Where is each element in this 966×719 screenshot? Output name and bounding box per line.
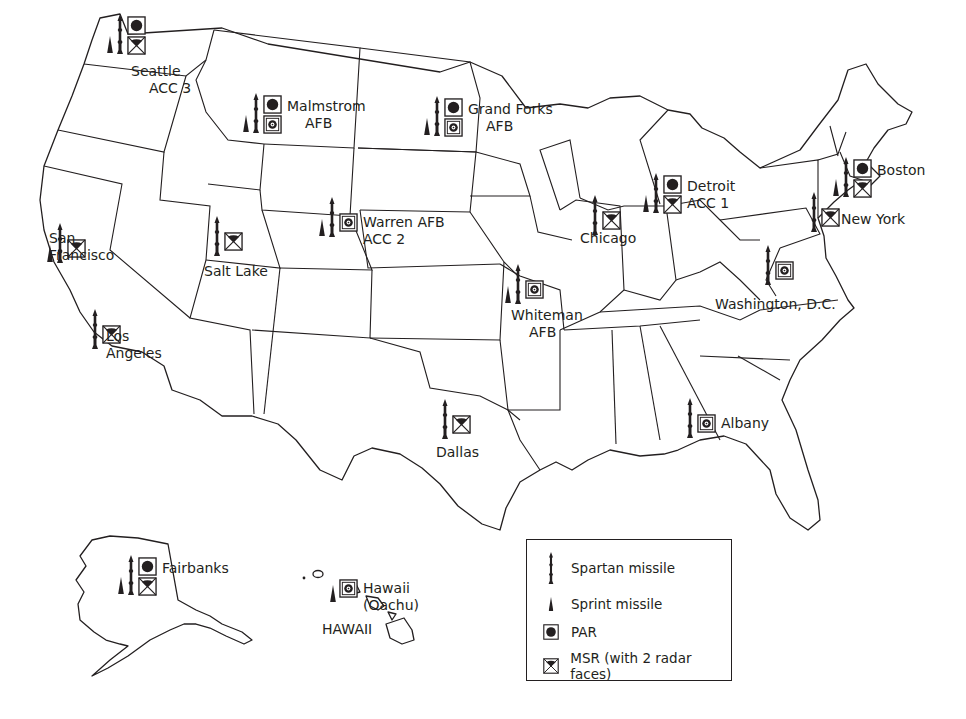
site-label: (Oachu): [363, 597, 419, 613]
msr-site-radar-icon: [264, 116, 281, 133]
alaska-outline: [76, 536, 252, 676]
msr-radar-icon: [139, 578, 156, 595]
site-label: AFB: [486, 118, 513, 134]
par-radar-icon: [445, 99, 462, 116]
legend-item-sprint: Sprint missile: [541, 596, 662, 612]
site-label: ACC 3: [149, 80, 191, 96]
msr-radar-icon: [822, 209, 839, 226]
site-label: Francisco: [49, 247, 114, 263]
msr-radar-icon: [541, 658, 560, 674]
legend-label: Spartan missile: [571, 560, 675, 576]
sprint-missile-icon: [541, 597, 561, 611]
site-boston[interactable]: Boston: [833, 157, 925, 197]
par-radar-icon: [128, 17, 145, 34]
site-label: AFB: [305, 115, 332, 131]
site-label: Boston: [877, 162, 925, 178]
site-label: Dallas: [436, 444, 479, 460]
site-label: San: [49, 230, 75, 246]
legend-item-par: PAR: [541, 624, 597, 640]
msr-site-radar-icon: [776, 262, 793, 279]
sprint-missile-icon: [330, 585, 336, 602]
site-label: Warren AFB: [363, 214, 445, 230]
msr-radar-icon: [453, 416, 470, 433]
msr-radar-icon: [225, 233, 242, 250]
legend-item-msr: MSR (with 2 radar faces): [541, 650, 731, 682]
msr-radar-icon: [664, 196, 681, 213]
site-label: Hawaii: [363, 580, 410, 596]
site-label: ACC 2: [363, 231, 405, 247]
msr-radar-icon: [854, 180, 871, 197]
legend-label: MSR (with 2 radar faces): [570, 650, 731, 682]
site-label: Fairbanks: [162, 560, 229, 576]
site-detroit[interactable]: DetroitACC 1: [643, 173, 736, 213]
par-radar-icon: [541, 624, 561, 640]
site-label: Washington, D.C.: [715, 296, 836, 312]
msr-radar-icon: [128, 37, 145, 54]
legend-item-spartan: Spartan missile: [541, 552, 675, 584]
site-label: Salt Lake: [204, 263, 268, 279]
site-label: Detroit: [687, 178, 736, 194]
msr-site-radar-icon: [526, 281, 543, 298]
site-label: Malmstrom: [287, 98, 366, 114]
site-label: Whiteman: [511, 307, 583, 323]
region-label-hawaii-state: HAWAII: [322, 621, 372, 637]
site-label: Grand Forks: [468, 101, 553, 117]
site-label: Angeles: [106, 345, 162, 361]
us-map: SeattleACC 3MalmstromAFBGrand ForksAFBDe…: [0, 0, 966, 719]
region-labels: HAWAII: [322, 621, 372, 637]
site-hawaii-oahu[interactable]: Hawaii(Oachu): [330, 580, 419, 613]
site-label: Los: [106, 328, 129, 344]
site-label: AFB: [529, 324, 556, 340]
site-label: ACC 1: [687, 195, 729, 211]
site-label: Chicago: [580, 230, 636, 246]
msr-radar-icon: [603, 212, 620, 229]
par-radar-icon: [264, 96, 281, 113]
site-label: Albany: [721, 415, 769, 431]
par-radar-icon: [854, 160, 871, 177]
legend: Spartan missile Sprint missile PAR MSR (…: [526, 539, 732, 681]
msr-site-radar-icon: [445, 119, 462, 136]
msr-site-radar-icon: [340, 580, 357, 597]
par-radar-icon: [139, 558, 156, 575]
msr-site-radar-icon: [698, 415, 715, 432]
spartan-missile-icon: [541, 552, 561, 584]
legend-label: Sprint missile: [571, 596, 662, 612]
msr-site-radar-icon: [340, 214, 357, 231]
site-label: Seattle: [131, 63, 181, 79]
site-label: New York: [841, 211, 906, 227]
par-radar-icon: [664, 176, 681, 193]
legend-label: PAR: [571, 624, 597, 640]
